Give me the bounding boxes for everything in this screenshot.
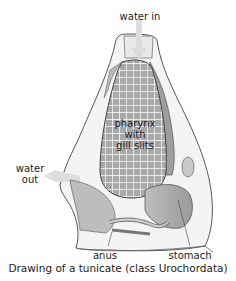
gonad xyxy=(182,157,194,177)
label-water-in: water in xyxy=(118,11,162,22)
label-anus: anus xyxy=(90,250,120,261)
label-pharynx: pharynx with gill slits xyxy=(110,118,160,151)
label-stomach: stomach xyxy=(168,250,212,261)
label-pharynx-line1: pharynx xyxy=(110,118,160,129)
diagram-caption: Drawing of a tunicate (class Urochordata… xyxy=(0,262,236,274)
label-pharynx-line2: with xyxy=(110,129,160,140)
label-pharynx-line3: gill slits xyxy=(110,140,160,151)
label-water-out-line2: out xyxy=(14,174,46,185)
label-water-out-line1: water xyxy=(14,163,46,174)
label-water-out: water out xyxy=(14,163,46,185)
